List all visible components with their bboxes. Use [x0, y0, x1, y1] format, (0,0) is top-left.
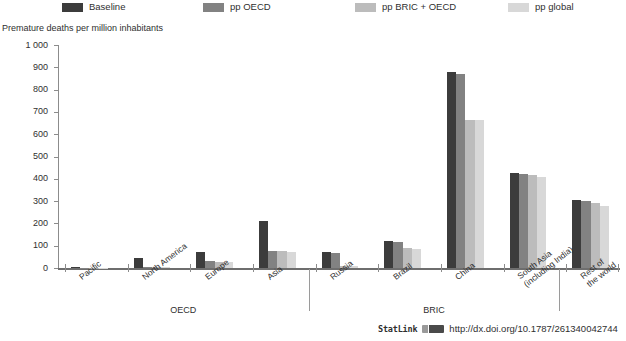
bar: [572, 200, 581, 268]
y-axis-line: [58, 45, 59, 268]
y-tick-mark: [54, 134, 58, 135]
statlink-label: StatLink: [378, 324, 417, 334]
bar: [412, 249, 421, 268]
x-tick-mark: [618, 264, 619, 272]
chart-plot-area: 01002003004005006007008009001 000 Pacifi…: [0, 0, 626, 341]
bar: [510, 173, 519, 268]
bar: [196, 252, 205, 268]
x-group-label: OECD: [58, 305, 309, 315]
y-tick-label: 900: [2, 63, 48, 72]
bar: [519, 174, 528, 268]
x-tick-mark: [378, 264, 379, 272]
bar: [287, 252, 296, 268]
y-tick-mark: [54, 112, 58, 113]
bar: [475, 120, 484, 268]
x-category-label: North America: [140, 241, 189, 282]
bar: [447, 72, 456, 268]
bar: [259, 221, 268, 268]
y-tick-label: 600: [2, 130, 48, 139]
y-tick-mark: [54, 157, 58, 158]
x-group-label: BRIC: [309, 305, 560, 315]
bar: [528, 175, 537, 268]
bar: [134, 258, 143, 268]
group-separator: [309, 269, 310, 311]
x-tick-mark: [253, 264, 254, 272]
y-tick-mark: [54, 90, 58, 91]
y-tick-label: 700: [2, 107, 48, 116]
bar: [456, 74, 465, 268]
y-tick-label: 300: [2, 197, 48, 206]
bar: [384, 241, 393, 268]
y-tick-label: 800: [2, 85, 48, 94]
y-tick-mark: [54, 268, 58, 269]
x-category-label: Pacific: [77, 259, 103, 282]
y-tick-mark: [54, 223, 58, 224]
statlink-footer[interactable]: StatLink http://dx.doi.org/10.1787/26134…: [378, 323, 618, 334]
y-tick-mark: [54, 246, 58, 247]
x-tick-mark: [566, 264, 567, 272]
x-tick-mark: [65, 264, 66, 272]
x-tick-mark: [190, 264, 191, 272]
y-tick-label: 400: [2, 174, 48, 183]
x-tick-mark: [128, 264, 129, 272]
y-tick-mark: [54, 179, 58, 180]
y-tick-mark: [54, 45, 58, 46]
y-tick-label: 500: [2, 152, 48, 161]
y-tick-label: 200: [2, 219, 48, 228]
y-tick-label: 100: [2, 241, 48, 250]
bar: [322, 252, 331, 268]
bar: [581, 201, 590, 268]
x-tick-mark: [316, 264, 317, 272]
x-tick-mark: [504, 264, 505, 272]
group-separator: [559, 269, 560, 311]
x-tick-mark: [441, 264, 442, 272]
y-tick-label: 1 000: [2, 41, 48, 50]
bar: [465, 120, 474, 268]
y-tick-mark: [54, 67, 58, 68]
statlink-icon: [422, 325, 444, 333]
bar: [71, 267, 80, 268]
y-tick-label: 0: [2, 264, 48, 273]
y-tick-mark: [54, 201, 58, 202]
statlink-url[interactable]: http://dx.doi.org/10.1787/261340042744: [449, 323, 618, 334]
bar: [393, 242, 402, 268]
